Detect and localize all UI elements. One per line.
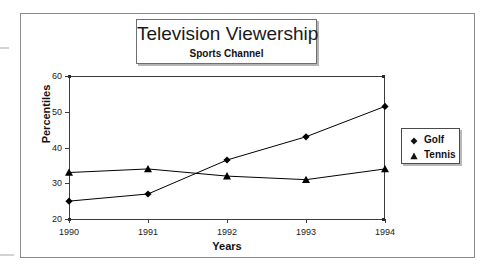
legend-label-tennis: Tennis [424,149,455,160]
scan-artifact [0,47,9,49]
legend-label-golf: Golf [424,134,444,145]
x-axis-tick-label: 1990 [59,227,79,237]
scan-artifact [0,254,14,256]
series-plot [69,76,385,220]
y-axis-tick-label: 30 [52,178,62,188]
chart-legend: Golf Tennis [401,128,460,164]
chart-title: Television Viewership [137,22,316,46]
x-axis-tick-label: 1993 [296,227,316,237]
x-axis-tick-label: 1991 [138,227,158,237]
y-axis-tick-label: 50 [52,107,62,117]
chart-subtitle: Sports Channel [137,47,316,60]
triangle-marker-icon [407,148,421,160]
legend-item-golf: Golf [407,132,444,146]
diamond-marker-icon [407,133,421,145]
y-axis-tick-label: 20 [52,214,62,224]
data-point-golf [223,156,230,163]
y-axis-tick-label: 60 [52,71,62,81]
chart-figure: Television Viewership Sports Channel Per… [0,0,497,273]
data-point-golf [302,133,309,140]
x-axis-tick-label: 1994 [375,227,395,237]
legend-item-tennis: Tennis [407,147,455,161]
series-line-golf [69,106,385,201]
x-axis-title: Years [69,240,385,252]
x-axis-tick [385,219,386,223]
y-axis-tick-label: 40 [52,143,62,153]
title-box: Television Viewership Sports Channel [136,19,317,64]
data-point-golf [144,190,151,197]
y-axis-title: Percentiles [40,74,52,154]
plot-area: 2030405060 19901991199219931994 [69,76,385,219]
x-axis-tick-label: 1992 [217,227,237,237]
